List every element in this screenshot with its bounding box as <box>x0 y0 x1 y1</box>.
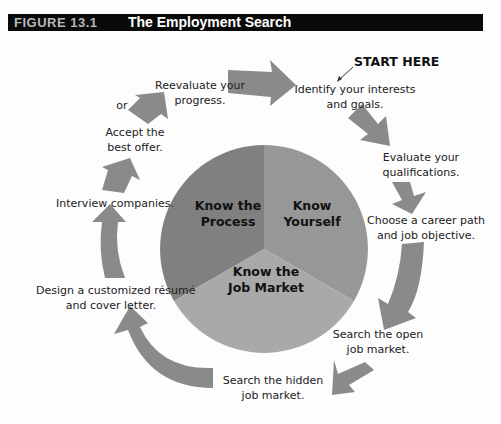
step-text: job market. <box>213 388 333 403</box>
pie-label-text: Job Market <box>218 280 314 296</box>
step-text: Search the open <box>328 327 428 342</box>
pie-label-text: Know the <box>188 198 268 214</box>
step-text: Search the hidden <box>213 373 333 388</box>
start-pointer-line <box>340 67 353 79</box>
pie-label-text: Process <box>188 214 268 230</box>
start-here-label: START HERE <box>354 54 439 69</box>
step-text: Choose a career path <box>356 213 496 228</box>
step-text: Evaluate your <box>376 150 466 165</box>
step-text: and goals. <box>282 97 428 112</box>
arrow-choose-to-open <box>378 242 424 330</box>
arrow-design-to-interview <box>92 204 126 278</box>
step-evaluate: Evaluate your qualifications. <box>376 150 466 180</box>
step-text: best offer. <box>100 140 170 155</box>
pie-label-process: Know the Process <box>188 198 268 230</box>
step-choose-path: Choose a career path and job objective. <box>356 213 496 243</box>
pie-label-text: Yourself <box>272 214 352 230</box>
step-reevaluate: Reevaluate your progress. <box>150 78 250 108</box>
step-text: qualifications. <box>376 165 466 180</box>
step-text: Design a customized résumé <box>36 283 186 298</box>
step-search-hidden: Search the hidden job market. <box>213 373 333 403</box>
arrow-open-to-hidden <box>332 360 374 395</box>
step-text: and cover letter. <box>36 298 186 313</box>
step-text: Accept the <box>100 125 170 140</box>
step-or: or <box>112 98 132 113</box>
pie-label-text: Know the <box>218 264 314 280</box>
pie-label-job-market: Know the Job Market <box>218 264 314 296</box>
step-text: or <box>112 98 132 113</box>
pie-label-text: Know <box>272 198 352 214</box>
step-search-open: Search the open job market. <box>328 327 428 357</box>
step-text: Interview companies. <box>50 196 180 211</box>
step-design-resume: Design a customized résumé and cover let… <box>36 283 186 313</box>
center-pie <box>160 145 368 353</box>
step-text: progress. <box>150 93 250 108</box>
step-text: job market. <box>328 342 428 357</box>
step-text: Reevaluate your <box>150 78 250 93</box>
arrow-evaluate-to-choose <box>392 182 426 214</box>
step-accept-offer: Accept the best offer. <box>100 125 170 155</box>
step-text: Identify your interests <box>282 82 428 97</box>
pie-label-yourself: Know Yourself <box>272 198 352 230</box>
step-interview: Interview companies. <box>50 196 180 211</box>
step-text: and job objective. <box>356 228 496 243</box>
step-identify: Identify your interests and goals. <box>282 82 428 112</box>
arrow-interview-to-accept <box>102 158 140 193</box>
